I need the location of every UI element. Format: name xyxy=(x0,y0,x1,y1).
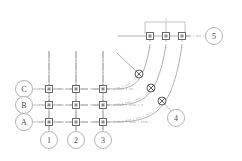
grid-bubble-C-label: C xyxy=(21,85,26,94)
node-top-mid[interactable] xyxy=(163,33,170,40)
node-A1[interactable] xyxy=(46,119,53,126)
grid-bubble-2-label: 2 xyxy=(74,136,78,145)
grid-bubble-3-label: 3 xyxy=(101,136,105,145)
grid-bubble-3[interactable]: 3 xyxy=(95,132,112,149)
cross-nodes xyxy=(135,70,166,105)
grid-bubble-1-label: 1 xyxy=(47,136,51,145)
grid-bubble-B[interactable]: B xyxy=(16,97,33,114)
grid-bubble-A-label: A xyxy=(21,118,27,127)
radial-centerline-upper xyxy=(103,74,139,89)
node-top-left[interactable] xyxy=(147,33,154,40)
leader-diagonal-line xyxy=(117,53,139,74)
dimension-label: 1 xyxy=(165,17,167,22)
node-C3[interactable] xyxy=(100,86,107,93)
grid-bubble-C[interactable]: C xyxy=(16,81,33,98)
grid-bubble-5[interactable]: 5 xyxy=(206,28,223,45)
grid-bubble-4[interactable]: 4 xyxy=(168,110,185,127)
grid-bubble-B-label: B xyxy=(21,101,26,110)
node-arc-upper[interactable] xyxy=(135,70,143,78)
square-nodes xyxy=(46,33,186,126)
radial-centerline-lower xyxy=(103,101,162,122)
row-grid-bubbles: C B A xyxy=(16,81,33,131)
drawing-canvas: 1 xyxy=(0,0,242,161)
node-top-right[interactable] xyxy=(179,33,186,40)
node-C2[interactable] xyxy=(73,86,80,93)
node-C1[interactable] xyxy=(46,86,53,93)
node-A3[interactable] xyxy=(100,119,107,126)
grid-bubble-A[interactable]: A xyxy=(16,114,33,131)
radial-centerline-middle xyxy=(103,88,151,105)
node-arc-lower[interactable] xyxy=(158,97,166,105)
grid-bubble-4-label: 4 xyxy=(174,114,178,123)
grid-bubble-1[interactable]: 1 xyxy=(41,132,58,149)
grid-bubble-5-label: 5 xyxy=(212,32,216,41)
arc-grid-inner xyxy=(112,45,150,89)
node-arc-middle[interactable] xyxy=(147,84,155,92)
node-B3[interactable] xyxy=(100,102,107,109)
node-B1[interactable] xyxy=(46,102,53,109)
column-stub-lines xyxy=(49,51,103,89)
radial-center-lines xyxy=(103,74,162,122)
column-grid-bubbles: 1 2 3 xyxy=(41,132,112,149)
node-B2[interactable] xyxy=(73,102,80,109)
grid-bubble-2[interactable]: 2 xyxy=(68,132,85,149)
dimension-bracket: 1 xyxy=(145,17,185,35)
node-A2[interactable] xyxy=(73,119,80,126)
grid-drawing-svg: 1 xyxy=(0,0,242,161)
